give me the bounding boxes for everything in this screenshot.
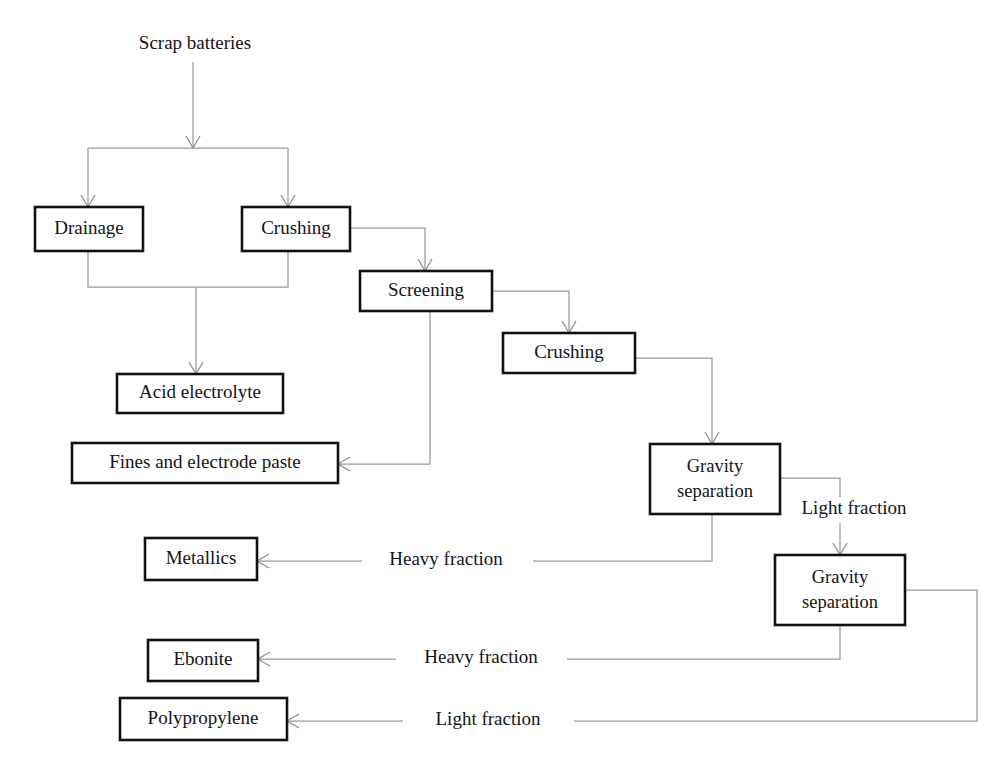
node-ebonite[interactable]: Ebonite	[148, 640, 258, 681]
node-crushing-2[interactable]: Crushing	[503, 333, 635, 373]
edge-merge-to-acid	[189, 287, 203, 374]
node-crushing-1-label: Crushing	[261, 217, 331, 238]
node-gravity-separation-1-label-line1: Gravity	[687, 456, 744, 476]
edge-entry-to-split	[186, 62, 200, 148]
node-screening[interactable]: Screening	[360, 271, 492, 311]
node-gravity-separation-2-label-line1: Gravity	[812, 567, 869, 587]
node-drainage-label: Drainage	[54, 217, 124, 238]
entry-label: Scrap batteries	[139, 32, 251, 53]
node-metallics[interactable]: Metallics	[145, 538, 257, 580]
node-crushing-1[interactable]: Crushing	[242, 207, 350, 251]
process-flow-diagram: Scrap batteries Light fraction Heavy fra…	[0, 0, 1002, 775]
node-fines-and-electrode-paste[interactable]: Fines and electrode paste	[72, 443, 338, 483]
edge-split-to-drainage	[81, 148, 95, 207]
node-ebonite-label: Ebonite	[173, 648, 232, 669]
edge-drainage-to-merge	[88, 251, 196, 287]
node-crushing-2-label: Crushing	[534, 341, 604, 362]
edge-label-heavy-fraction-1: Heavy fraction	[389, 548, 503, 569]
node-fines-and-electrode-paste-label: Fines and electrode paste	[109, 451, 301, 472]
edge-crushing1-to-screening	[350, 228, 432, 271]
edge-label-heavy-fraction-2: Heavy fraction	[424, 646, 538, 667]
node-gravity-separation-1-box[interactable]	[650, 444, 780, 514]
edge-crushing1-to-merge	[196, 251, 288, 287]
node-acid-electrolyte[interactable]: Acid electrolyte	[117, 374, 283, 413]
flowchart-canvas: Scrap batteries Light fraction Heavy fra…	[0, 0, 1002, 775]
node-polypropylene-label: Polypropylene	[148, 707, 259, 728]
node-drainage[interactable]: Drainage	[35, 207, 143, 251]
node-acid-electrolyte-label: Acid electrolyte	[139, 381, 261, 402]
node-gravity-separation-2-label-line2: separation	[802, 592, 878, 612]
edge-split-to-crushing1	[281, 148, 295, 207]
node-gravity-separation-1-label-line2: separation	[677, 481, 753, 501]
edge-crushing2-to-gravity1	[635, 358, 719, 444]
node-gravity-separation-1[interactable]: Gravity separation	[650, 444, 780, 514]
edge-label-light-fraction-2: Light fraction	[436, 708, 541, 729]
node-polypropylene[interactable]: Polypropylene	[120, 698, 287, 740]
edge-screening-to-crushing2	[492, 291, 576, 333]
edge-label-light-fraction-1: Light fraction	[802, 497, 907, 518]
node-gravity-separation-2-box[interactable]	[775, 555, 905, 625]
node-gravity-separation-2[interactable]: Gravity separation	[775, 555, 905, 625]
node-metallics-label: Metallics	[166, 547, 237, 568]
node-screening-label: Screening	[388, 279, 464, 300]
edge-gravity2-to-ebonite	[258, 625, 840, 666]
edge-screening-to-fines	[338, 311, 430, 471]
